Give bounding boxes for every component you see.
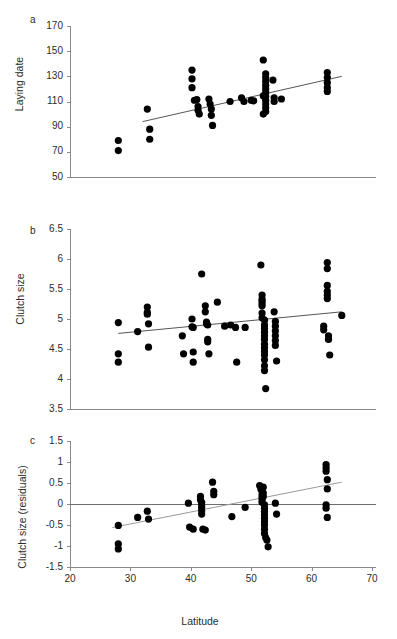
svg-text:4: 4 — [57, 373, 63, 384]
panel-a-plot-area: 170150130110907050 — [0, 0, 397, 205]
svg-text:40: 40 — [185, 573, 197, 584]
svg-text:-1.5: -1.5 — [46, 561, 64, 572]
panel-c-plot-area: 1.510.50-0.5-1-1.5203040506070 — [0, 417, 397, 639]
svg-text:5: 5 — [57, 313, 63, 324]
panel-b-plot-area: 6.565.554.543.5 — [0, 205, 397, 417]
svg-text:-1: -1 — [54, 540, 63, 551]
svg-text:-0.5: -0.5 — [46, 519, 64, 530]
svg-text:5.5: 5.5 — [49, 283, 63, 294]
svg-text:1.5: 1.5 — [49, 435, 63, 446]
svg-text:0.5: 0.5 — [49, 477, 63, 488]
svg-text:110: 110 — [47, 95, 63, 106]
svg-text:90: 90 — [52, 120, 64, 131]
svg-text:6: 6 — [57, 253, 63, 264]
figure-scatter-panels: a Laying date 170150130110907050 b Clutc… — [0, 0, 397, 639]
svg-text:60: 60 — [306, 573, 318, 584]
svg-text:50: 50 — [52, 171, 64, 182]
svg-text:20: 20 — [64, 573, 76, 584]
svg-text:6.5: 6.5 — [49, 223, 63, 234]
panel-c: c Clutch size (residuals) 1.510.50-0.5-1… — [0, 417, 397, 639]
svg-text:130: 130 — [46, 70, 63, 81]
svg-text:30: 30 — [125, 573, 137, 584]
svg-text:170: 170 — [46, 20, 63, 31]
svg-text:50: 50 — [246, 573, 258, 584]
svg-text:70: 70 — [366, 573, 378, 584]
svg-text:70: 70 — [52, 145, 64, 156]
svg-text:150: 150 — [46, 45, 63, 56]
panel-c-x-axis-title: Latitude — [130, 615, 270, 627]
panel-a: a Laying date 170150130110907050 — [0, 0, 397, 205]
svg-text:4.5: 4.5 — [49, 343, 63, 354]
svg-text:3.5: 3.5 — [49, 403, 63, 414]
svg-text:1: 1 — [57, 456, 63, 467]
panel-b: b Clutch size 6.565.554.543.5 — [0, 205, 397, 417]
svg-text:0: 0 — [57, 498, 63, 509]
